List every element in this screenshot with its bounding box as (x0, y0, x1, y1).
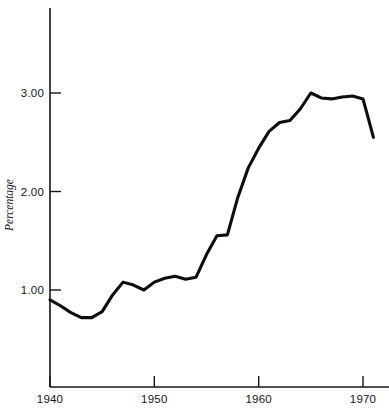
x-tick-label-1950: 1950 (141, 393, 167, 405)
x-tick-label-1940: 1940 (37, 393, 63, 405)
y-tick-label-1: 1.00 (21, 284, 44, 296)
y-tick-label-2: 2.00 (21, 186, 44, 198)
y-axis-title: Percentage (3, 179, 16, 232)
x-tick-label-1970: 1970 (350, 393, 376, 405)
chart-background (0, 0, 389, 412)
x-tick-label-1960: 1960 (246, 393, 272, 405)
line-chart: 3.00 2.00 1.00 1940 1950 1960 1970 Perce… (0, 0, 389, 412)
y-tick-label-3: 3.00 (21, 87, 44, 99)
chart-container: 3.00 2.00 1.00 1940 1950 1960 1970 Perce… (0, 0, 389, 412)
